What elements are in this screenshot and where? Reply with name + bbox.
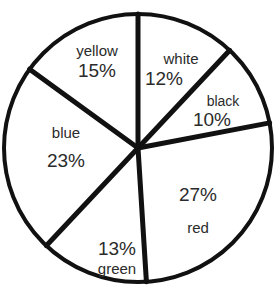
slice-name-green: green xyxy=(98,261,136,277)
slice-label-green: 13% green xyxy=(98,239,136,277)
slice-name-yellow: yellow xyxy=(76,43,118,59)
slice-label-blue: blue 23% xyxy=(47,125,85,172)
slice-name-red: red xyxy=(179,219,217,235)
slice-name-blue: blue xyxy=(47,125,85,141)
slice-value-blue: 23% xyxy=(47,151,85,172)
slice-label-white: white 12% xyxy=(163,51,198,90)
slice-value-red: 27% xyxy=(179,185,217,206)
slice-name-black: black xyxy=(207,94,240,109)
pie-chart-graphic xyxy=(0,0,277,291)
slice-name-white: white xyxy=(163,51,198,67)
slice-label-black: black 10% xyxy=(207,94,240,131)
slice-label-red: 27% red xyxy=(179,185,217,236)
pie-chart: white 12% black 10% 27% red 13% green bl… xyxy=(0,0,277,291)
slice-value-green: 13% xyxy=(98,239,136,260)
slice-value-white: 12% xyxy=(129,69,198,90)
slice-value-yellow: 15% xyxy=(76,61,118,82)
slice-value-black: 10% xyxy=(185,110,240,131)
slice-label-yellow: yellow 15% xyxy=(76,43,118,82)
